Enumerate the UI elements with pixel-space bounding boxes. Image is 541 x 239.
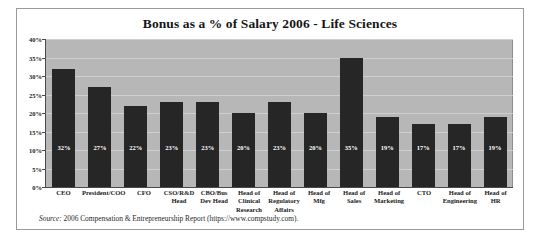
source-text: 2006 Compensation & Entrepreneurship Rep…: [62, 214, 299, 223]
bar-slot: 19%: [477, 39, 513, 187]
source-note: Source: 2006 Compensation & Entrepreneur…: [39, 214, 298, 223]
x-axis-category-label: Head of Mfg: [302, 189, 337, 221]
bar[interactable]: 27%: [88, 87, 111, 187]
bar[interactable]: 17%: [448, 124, 471, 187]
y-axis-tick-label: 0%: [32, 184, 42, 191]
bar-value-label: 19%: [484, 145, 507, 152]
bar-value-label: 22%: [124, 145, 147, 152]
bar[interactable]: 23%: [196, 102, 219, 187]
bar[interactable]: 32%: [52, 69, 75, 187]
bar[interactable]: 19%: [376, 117, 399, 187]
bar[interactable]: 23%: [160, 102, 183, 187]
bar-value-label: 23%: [196, 145, 219, 152]
bar-value-label: 32%: [52, 145, 75, 152]
bar[interactable]: 20%: [304, 113, 327, 187]
bar-slot: 20%: [226, 39, 262, 187]
y-axis-tick-label: 30%: [29, 73, 42, 80]
bar[interactable]: 35%: [340, 58, 363, 188]
bar-slot: 23%: [262, 39, 298, 187]
x-axis-category-label: Head of Engineering: [442, 189, 478, 221]
bar-slot: 27%: [82, 39, 118, 187]
x-axis-category-label: CTO: [407, 189, 442, 221]
y-axis-tick-label: 10%: [29, 147, 42, 154]
bar-value-label: 17%: [448, 145, 471, 152]
bar-slot: 20%: [297, 39, 333, 187]
chart-figure: Bonus as a % of Salary 2006 - Life Scien…: [16, 8, 524, 230]
bar-slot: 23%: [190, 39, 226, 187]
y-axis-tick-label: 5%: [32, 165, 42, 172]
chart-title: Bonus as a % of Salary 2006 - Life Scien…: [17, 16, 523, 32]
bar-slot: 17%: [441, 39, 477, 187]
plot-wrapper: 0%5%10%15%20%25%30%35%40% 32%27%22%23%23…: [46, 39, 513, 187]
bar[interactable]: 17%: [412, 124, 435, 187]
bar-value-label: 19%: [376, 145, 399, 152]
bar[interactable]: 22%: [124, 106, 147, 187]
bar-value-label: 17%: [412, 145, 435, 152]
bar-value-label: 23%: [268, 145, 291, 152]
bar-value-label: 27%: [88, 145, 111, 152]
y-axis-tick-label: 35%: [29, 54, 42, 61]
bar-slot: 19%: [369, 39, 405, 187]
bar-slot: 32%: [46, 39, 82, 187]
x-axis-category-label: Head of Sales: [337, 189, 372, 221]
bar-value-label: 20%: [232, 145, 255, 152]
x-axis-category-label: Head of Marketing: [372, 189, 407, 221]
bar-value-label: 23%: [160, 145, 183, 152]
bar-slot: 35%: [333, 39, 369, 187]
bar-series: 32%27%22%23%23%20%23%20%35%19%17%17%19%: [46, 39, 513, 187]
bar[interactable]: 19%: [484, 117, 507, 187]
source-label: Source:: [39, 214, 62, 223]
y-axis-tick-label: 15%: [29, 128, 42, 135]
x-axis-category-label: Head of HR: [478, 189, 513, 221]
y-axis-tick-label: 25%: [29, 91, 42, 98]
bar[interactable]: 20%: [232, 113, 255, 187]
bar-slot: 17%: [405, 39, 441, 187]
bar-value-label: 20%: [304, 145, 327, 152]
bar-slot: 22%: [118, 39, 154, 187]
bar-slot: 23%: [154, 39, 190, 187]
y-axis-tick-label: 40%: [29, 36, 42, 43]
bar[interactable]: 23%: [268, 102, 291, 187]
bar-value-label: 35%: [340, 145, 363, 152]
y-axis-tick-label: 20%: [29, 110, 42, 117]
x-axis-line: [45, 187, 513, 188]
